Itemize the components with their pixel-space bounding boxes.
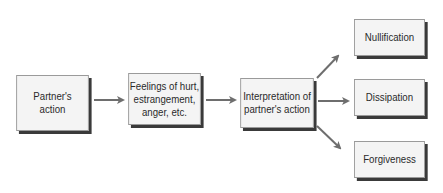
- node-label-line: estrangement,: [130, 93, 199, 106]
- node-label-line: anger, etc.: [130, 106, 199, 119]
- node-label: Forgiveness: [363, 153, 416, 166]
- node-nullification: Nullification: [354, 19, 425, 56]
- arrow-interpretation-to-nullification: [317, 56, 338, 78]
- node-label: Dissipation: [366, 91, 413, 104]
- node-label-line: partner's action: [243, 103, 311, 116]
- node-label-line: Feelings of hurt,: [130, 80, 199, 93]
- node-forgiveness: Forgiveness: [354, 141, 425, 178]
- node-label: Nullification: [365, 31, 414, 44]
- node-partners-action: Partner's action: [16, 75, 89, 131]
- node-label-line: Interpretation of: [243, 90, 311, 103]
- node-feelings: Feelings of hurt, estrangement, anger, e…: [128, 73, 201, 125]
- arrow-interpretation-to-forgiveness: [317, 126, 340, 148]
- node-interpretation: Interpretation of partner's action: [240, 78, 314, 128]
- node-dissipation: Dissipation: [354, 79, 425, 116]
- node-label-line: action: [33, 103, 71, 116]
- node-label-line: Partner's: [33, 90, 71, 103]
